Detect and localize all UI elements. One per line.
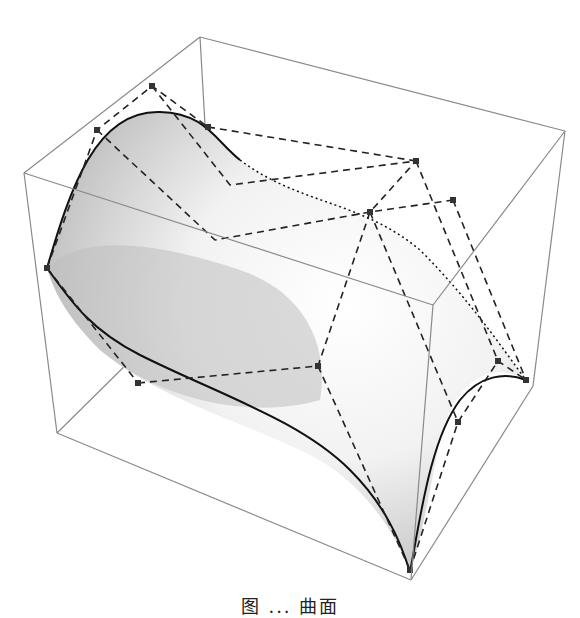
- control-point: [450, 197, 456, 203]
- figure-caption: 图 ... 曲面: [0, 592, 580, 618]
- control-point: [523, 377, 529, 383]
- box-edge: [200, 37, 565, 131]
- box-edge: [24, 173, 57, 433]
- control-point: [455, 419, 461, 425]
- control-point: [315, 363, 321, 369]
- control-point: [94, 127, 100, 133]
- control-point: [205, 124, 211, 130]
- control-point: [495, 358, 501, 364]
- control-point: [135, 380, 141, 386]
- control-point: [367, 209, 373, 215]
- box-edge: [200, 37, 205, 125]
- box-edge: [533, 131, 565, 386]
- box-edge: [433, 131, 565, 305]
- control-column: [208, 127, 416, 161]
- control-point: [44, 265, 50, 271]
- control-point: [413, 158, 419, 164]
- control-point: [149, 83, 155, 89]
